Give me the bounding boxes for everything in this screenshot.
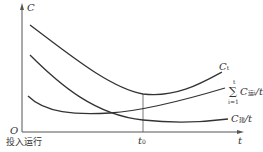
t0-sub: 0 <box>142 138 146 145</box>
operating-cost-curve <box>28 88 225 114</box>
total-cost-curve <box>30 25 222 95</box>
operating-cost-label: C运i/t <box>240 87 263 97</box>
construction-cost-suffix: /t <box>245 113 252 124</box>
total-cost-main: C <box>219 61 227 72</box>
t0-label: t0 <box>138 136 146 146</box>
origin-label: O <box>10 126 18 136</box>
y-axis-arrow-icon <box>20 3 24 10</box>
construction-cost-main: C <box>231 113 239 124</box>
total-cost-label: Ct <box>219 62 229 72</box>
construction-cost-curve <box>30 55 228 122</box>
operating-cost-main: C <box>240 86 248 97</box>
construction-cost-label: C建/t <box>231 114 252 124</box>
y-axis-label: C <box>27 3 35 13</box>
x-axis-label: t <box>238 136 242 146</box>
x-axis-arrow-icon <box>237 130 244 134</box>
sum-symbol: ∑ <box>229 86 237 97</box>
operating-cost-sub: 运i <box>248 89 256 96</box>
cost-curve-diagram <box>0 0 263 152</box>
total-cost-sub: t <box>227 64 229 71</box>
sum-lower-limit: i=1 <box>228 99 239 105</box>
operating-cost-suffix: /t <box>256 86 263 97</box>
origin-caption: 投入运行 <box>6 138 42 147</box>
